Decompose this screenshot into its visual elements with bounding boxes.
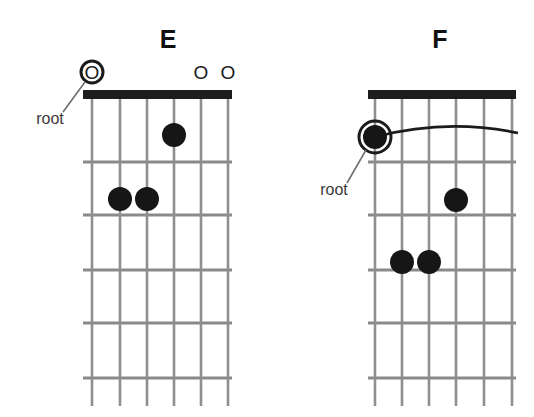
- finger-dot-string6-fret1[interactable]: [363, 125, 387, 149]
- finger-dot-string3-fret2[interactable]: [444, 188, 468, 212]
- nut-f: [368, 90, 516, 99]
- open-string-marker-string1: O: [221, 62, 236, 83]
- chord-title-e: E: [160, 25, 177, 53]
- nut-e: [83, 90, 232, 99]
- root-label: root: [320, 181, 348, 198]
- finger-dot-string4-fret2[interactable]: [135, 187, 159, 211]
- root-open-marker: O: [85, 62, 100, 83]
- chord-title-f: F: [432, 25, 447, 53]
- finger-dot-string3-fret1[interactable]: [162, 123, 186, 147]
- open-string-marker-string2: O: [194, 62, 209, 83]
- finger-dot-string5-fret2[interactable]: [108, 187, 132, 211]
- root-label: root: [36, 110, 64, 127]
- chord-chart-figure: EOOOrootFroot: [0, 0, 534, 417]
- finger-dot-string4-fret3[interactable]: [417, 250, 441, 274]
- finger-dot-string5-fret3[interactable]: [390, 250, 414, 274]
